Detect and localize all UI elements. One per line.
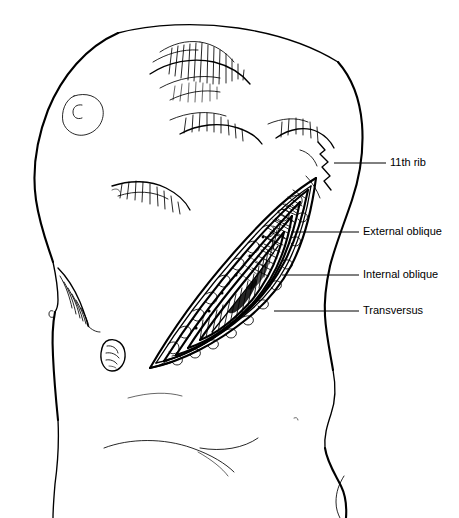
- flank-shading-left: [58, 268, 100, 332]
- label-texts: 11th rib External oblique Internal obliq…: [363, 156, 442, 316]
- hip-right-contour: [325, 370, 335, 448]
- breast-areola: [62, 94, 103, 135]
- chest-upper-contour: [118, 25, 338, 62]
- label-transversus: Transversus: [363, 304, 424, 316]
- anatomy-illustration: 11th rib External oblique Internal obliq…: [0, 0, 459, 518]
- intercostal-strokes-upper: [169, 43, 244, 84]
- label-internal-oblique: Internal oblique: [363, 268, 438, 280]
- body-outline: [35, 25, 363, 518]
- anatomical-figure: 11th rib External oblique Internal obliq…: [0, 0, 459, 518]
- skin-tick: [112, 189, 120, 192]
- thigh-right-contour: [325, 448, 346, 518]
- umbilicus: [101, 340, 125, 371]
- flank-left-waist: [53, 312, 58, 420]
- label-external-oblique: External oblique: [363, 225, 442, 237]
- torso-left-contour: [35, 33, 119, 262]
- torso-right-contour: [330, 62, 363, 266]
- costal-margin: [112, 181, 190, 214]
- label-rib-11: 11th rib: [390, 156, 426, 168]
- flank-right-contour: [325, 266, 333, 370]
- rib-cage-hatching: [58, 41, 334, 332]
- incision-wound: [150, 178, 316, 368]
- hip-left-contour: [53, 420, 58, 518]
- torso-left-contour-lower: [53, 262, 58, 312]
- inguinal-creases: [104, 393, 298, 476]
